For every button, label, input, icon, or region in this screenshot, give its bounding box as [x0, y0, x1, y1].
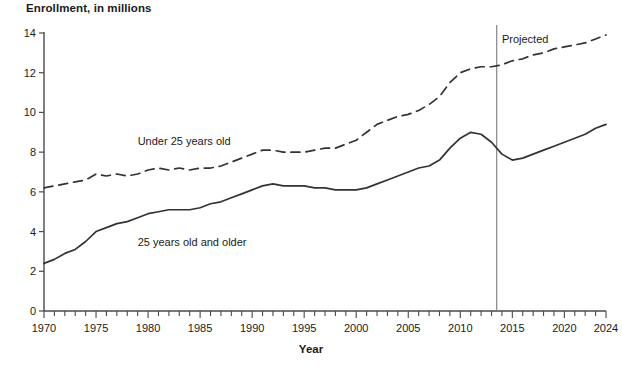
older-25-series-label: 25 years old and older [138, 236, 247, 248]
y-tick-label: 10 [24, 106, 36, 118]
x-tick-label: 2024 [594, 322, 618, 334]
y-tick-label: 0 [30, 305, 36, 317]
series-line-under-25 [44, 35, 606, 188]
y-tick-label: 14 [24, 27, 36, 39]
chart-plot-area: 0246810121419701975198019851990199520002… [0, 0, 622, 345]
projected-label: Projected [502, 33, 548, 45]
x-tick-label: 2010 [448, 322, 472, 334]
y-tick-label: 4 [30, 226, 36, 238]
y-tick-label: 2 [30, 265, 36, 277]
x-tick-label: 1995 [292, 322, 316, 334]
x-tick-label: 2020 [552, 322, 576, 334]
y-tick-label: 6 [30, 186, 36, 198]
series-line-older-25 [44, 124, 606, 263]
enrollment-chart: Enrollment, in millions 0246810121419701… [0, 0, 622, 365]
x-tick-label: 2015 [500, 322, 524, 334]
x-tick-label: 2005 [396, 322, 420, 334]
x-tick-label: 2000 [344, 322, 368, 334]
x-axis-title: Year [0, 343, 622, 355]
y-tick-label: 8 [30, 146, 36, 158]
y-tick-label: 12 [24, 67, 36, 79]
under-25-series-label: Under 25 years old [138, 135, 231, 147]
x-tick-label: 1985 [188, 322, 212, 334]
x-tick-label: 1975 [84, 322, 108, 334]
x-tick-label: 1980 [136, 322, 160, 334]
x-tick-label: 1970 [32, 322, 56, 334]
x-tick-label: 1990 [240, 322, 264, 334]
